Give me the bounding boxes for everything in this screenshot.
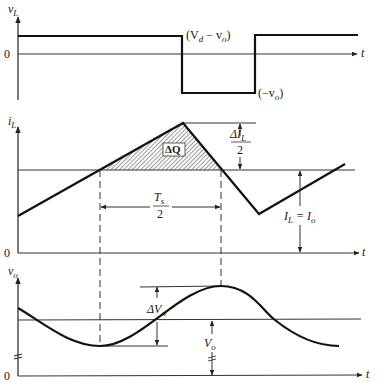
vo-axis-label: vo (8, 264, 18, 280)
vo-time-axis (18, 375, 362, 376)
vo-waveform (18, 286, 339, 346)
vo-t-label: t (366, 367, 370, 381)
delta-q-label: ΔQ (165, 143, 181, 155)
vl-origin-label: 0 (4, 47, 10, 61)
avg-current-label: IL = Io (283, 209, 316, 225)
vd-minus-vo-label: (Vd − vo) (186, 28, 230, 44)
il-t-label: t (362, 245, 366, 259)
half-period-numerator: Ts (154, 190, 165, 206)
panel-inductor-current: iL 0 t ΔQ ΔIL 2 IL = Io Ts 2 (4, 114, 366, 260)
vl-axis-label: vL (8, 2, 18, 18)
vo-avg-label: Vo (204, 336, 216, 352)
ripple-half-numerator: ΔIL (229, 127, 246, 143)
panel-inductor-voltage: vL 0 t (Vd − vo) (−vo) (4, 2, 365, 102)
vl-t-label: t (361, 46, 365, 60)
ripple-waveform-figure: vL 0 t (Vd − vo) (−vo) iL 0 t ΔQ ΔIL 2 I… (0, 0, 380, 392)
vo-ripple-label: ΔVo (146, 302, 166, 318)
panel-output-voltage: vo 0 t ΔVo Vo (4, 264, 370, 383)
vo-average-line (18, 319, 361, 320)
ripple-half-denominator: 2 (237, 143, 243, 157)
vo-origin-label: 0 (4, 369, 10, 383)
vl-waveform (18, 35, 358, 93)
il-axis-label: iL (8, 114, 16, 130)
neg-vo-label: (−vo) (258, 86, 283, 102)
half-period-denominator: 2 (157, 207, 163, 221)
il-origin-label: 0 (4, 246, 10, 260)
